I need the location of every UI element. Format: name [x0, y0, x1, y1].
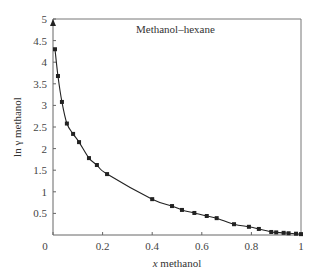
data-point-marker: [287, 231, 291, 235]
data-point-marker: [77, 140, 81, 144]
data-point-marker: [65, 122, 69, 126]
y-tick-label: 2: [42, 143, 48, 155]
y-tick-label: 5: [42, 13, 48, 25]
data-series: [53, 47, 303, 236]
data-point-marker: [247, 225, 251, 229]
y-tick-label: 3: [42, 99, 48, 111]
y-tick-label: 1.5: [33, 164, 47, 176]
chart-title: Methanol–hexane: [136, 23, 215, 35]
data-point-marker: [95, 163, 99, 167]
data-point-marker: [232, 222, 236, 226]
x-tick-label: 1: [298, 240, 304, 252]
plot-frame: [53, 19, 301, 235]
x-axis-label-text: methanol: [158, 257, 202, 269]
data-point-marker: [60, 100, 64, 104]
x-axis-label: x methanol: [152, 257, 202, 269]
data-point-marker: [205, 214, 209, 218]
x-tick-label: 0.6: [195, 240, 209, 252]
y-tick-label: 1: [42, 186, 48, 198]
x-tick-label: 0.8: [245, 240, 259, 252]
data-point-marker: [87, 156, 91, 160]
data-point-marker: [71, 132, 75, 136]
data-point-marker: [269, 230, 273, 234]
x-tick-label: 0.2: [96, 240, 110, 252]
data-point-marker: [180, 208, 184, 212]
x-tick-label: 0: [42, 240, 48, 252]
y-axis-label: ln γ methanol: [11, 97, 23, 157]
data-point-marker: [105, 172, 109, 176]
y-tick-label: 2.5: [33, 121, 47, 133]
data-point-marker: [215, 216, 219, 220]
y-tick-label: 0.5: [33, 207, 47, 219]
y-tick-label: 4.5: [33, 35, 47, 47]
y-tick-label: 4: [42, 56, 48, 68]
x-tick-label: 0.4: [145, 240, 159, 252]
y-tick-label: 3.5: [33, 78, 47, 90]
data-point-marker: [170, 204, 174, 208]
data-point-marker: [299, 232, 303, 236]
infinite-dilution-arrow-icon: [50, 19, 56, 26]
series-line: [55, 49, 301, 234]
data-point-marker: [192, 211, 196, 215]
data-point-marker: [274, 230, 278, 234]
data-point-marker: [56, 74, 60, 78]
chart: 00.20.40.60.81 0.511.522.533.544.55 Meth…: [0, 0, 319, 275]
data-point-marker: [257, 227, 261, 231]
data-point-marker: [282, 231, 286, 235]
data-point-marker: [294, 232, 298, 236]
data-point-marker: [53, 47, 57, 51]
data-point-marker: [150, 197, 154, 201]
